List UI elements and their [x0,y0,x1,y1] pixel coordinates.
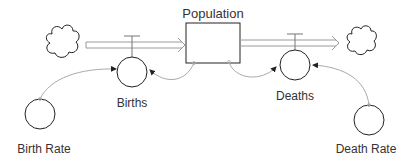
births-valve-icon [124,36,140,57]
source-cloud-icon [46,25,79,57]
deaths-valve-icon [287,34,303,50]
link-population-to-births [150,63,194,80]
deaths-label: Deaths [276,89,314,103]
link-deathrate-to-deaths [313,65,369,105]
stock-flow-diagram [0,0,412,163]
link-birthrate-to-births [40,69,116,99]
births-flow-pipe [86,38,185,52]
death-rate-label: Death Rate [336,142,397,156]
births-flow-node[interactable] [117,57,147,87]
birth-rate-label: Birth Rate [17,142,70,156]
sink-cloud-icon [347,26,376,55]
deaths-flow-pipe [240,36,339,50]
death-rate-converter[interactable] [354,105,384,135]
birth-rate-converter[interactable] [25,99,55,129]
population-label: Population [182,6,243,21]
deaths-flow-node[interactable] [280,50,310,80]
births-label: Births [117,96,148,110]
link-population-to-deaths [229,62,276,77]
population-stock[interactable] [186,23,240,63]
